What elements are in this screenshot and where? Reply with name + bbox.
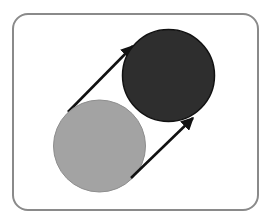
diagram-canvas xyxy=(0,0,272,221)
dark-circle xyxy=(123,30,215,122)
